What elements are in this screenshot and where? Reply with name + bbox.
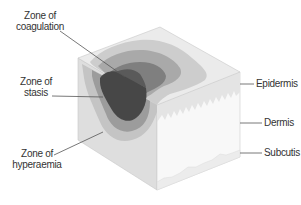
label-subcutis: Subcutis — [264, 147, 300, 158]
label-line: hyperaemia — [10, 159, 64, 170]
label-dermis: Dermis — [264, 117, 294, 128]
label-zone-of-stasis: Zone of stasis — [14, 76, 58, 98]
label-line: stasis — [14, 87, 58, 98]
label-zone-of-coagulation: Zone of coagulation — [14, 10, 66, 32]
label-zone-of-hyperaemia: Zone of hyperaemia — [10, 148, 64, 170]
label-line: coagulation — [14, 21, 66, 32]
label-line: Zone of — [10, 148, 64, 159]
label-line: Zone of — [14, 10, 66, 21]
label-epidermis: Epidermis — [256, 78, 298, 89]
label-line: Zone of — [14, 76, 58, 87]
